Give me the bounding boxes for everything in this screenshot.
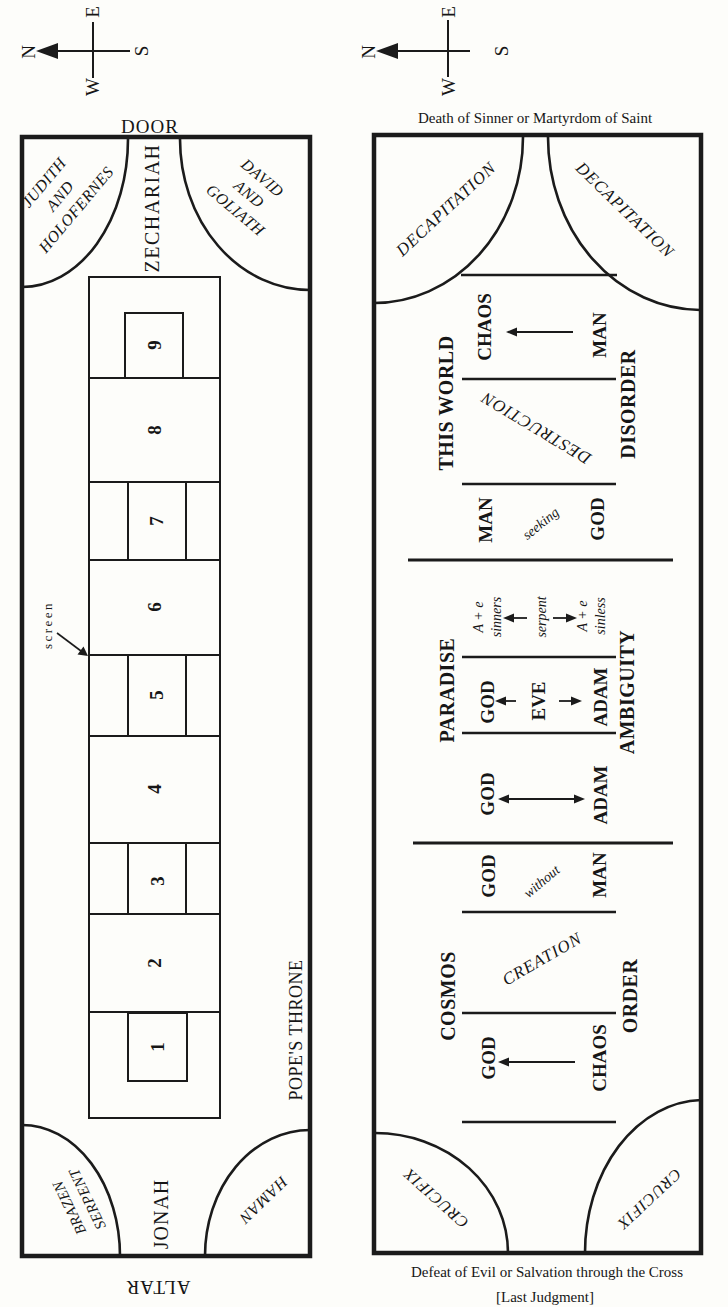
god-without-label: GOD bbox=[479, 854, 498, 897]
seeking-label: seeking bbox=[520, 505, 561, 542]
panel-number-4: 4 bbox=[145, 784, 164, 794]
compass2-west-label: W bbox=[439, 78, 458, 96]
god-sought-label: GOD bbox=[588, 497, 607, 540]
man-top-label: MAN bbox=[590, 312, 609, 357]
screen-arrow bbox=[57, 633, 88, 656]
god-adam-row-god-label: GOD bbox=[478, 772, 497, 815]
god-adam-row-adam-label: ADAM bbox=[591, 765, 610, 824]
paradise-label: PARADISE bbox=[437, 638, 457, 743]
panel-number-8: 8 bbox=[145, 425, 164, 435]
god-chaos-row-god-label: GOD bbox=[479, 1036, 498, 1079]
eve-label: EVE bbox=[529, 681, 548, 720]
compass-south-label: S bbox=[132, 46, 151, 57]
compass-north-label: N bbox=[19, 45, 38, 59]
order-label: ORDER bbox=[620, 959, 640, 1034]
panel-number-5: 5 bbox=[147, 690, 166, 700]
panel-number-3: 3 bbox=[148, 876, 167, 886]
compass2-east-label: E bbox=[439, 6, 458, 18]
pendentive-brazen-serpent-label: BRAZEN SERPENT bbox=[47, 1165, 112, 1242]
popes-throne-label: POPE'S THRONE bbox=[287, 960, 305, 1101]
compass2-north-label: N bbox=[359, 45, 378, 59]
screen-label: screen bbox=[41, 601, 54, 649]
panel-number-6: 6 bbox=[145, 602, 164, 612]
compass-rose-right bbox=[376, 20, 470, 77]
schema-caption-judgment: [Last Judgment] bbox=[496, 1290, 594, 1305]
schema-caption-top: Death of Sinner or Martyrdom of Saint bbox=[418, 111, 652, 126]
jonah-label: JONAH bbox=[151, 1179, 171, 1250]
cosmos-label: COSMOS bbox=[438, 951, 458, 1041]
corner-decapitation-right-label: DECAPITATION bbox=[573, 159, 678, 261]
pendentive-david-goliath-label: DAVID AND GOLIATH bbox=[202, 147, 297, 241]
man-without-label: MAN bbox=[590, 852, 609, 897]
panel-number-9: 9 bbox=[145, 340, 164, 350]
pendentive-haman-label: HAMAN bbox=[236, 1173, 290, 1226]
corner-crucifix-left-label: CRUCIFIX bbox=[401, 1165, 472, 1231]
book-figure-page: N E S W N E S W DOOR JUDITH AND HOLOFERN… bbox=[0, 0, 728, 1307]
corner-crucifix-right-label: CRUCIFIX bbox=[614, 1166, 684, 1233]
this-world-label: THIS WORLD bbox=[436, 335, 456, 470]
door-label: DOOR bbox=[121, 117, 179, 136]
serpent-label: serpent bbox=[535, 596, 549, 637]
ambiguity-label: AMBIGUITY bbox=[617, 630, 637, 755]
zechariah-label: ZECHARIAH bbox=[142, 143, 162, 272]
pendentive-judith-holofernes-label: JUDITH AND HOLOFERNES bbox=[2, 135, 119, 257]
disorder-label: DISORDER bbox=[618, 349, 638, 459]
schema-caption-bottom: Defeat of Evil or Salvation through the … bbox=[411, 1265, 683, 1280]
corner-decapitation-left-label: DECAPITATION bbox=[393, 159, 499, 259]
compass2-south-label: S bbox=[492, 46, 511, 57]
compass-west-label: W bbox=[83, 78, 102, 96]
god-eve-row-adam-label: ADAM bbox=[591, 667, 610, 726]
creation-diagonal-label: CREATION bbox=[499, 929, 584, 988]
god-chaos-row-chaos-label: CHAOS bbox=[590, 1024, 609, 1092]
panel-number-2: 2 bbox=[145, 958, 164, 968]
altar-label: ALTAR bbox=[125, 1278, 190, 1297]
chaos-top-label: CHAOS bbox=[475, 293, 494, 361]
panel-number-7: 7 bbox=[147, 516, 166, 526]
compass-east-label: E bbox=[83, 6, 102, 18]
panel-number-1: 1 bbox=[148, 1042, 167, 1052]
destruction-diagonal-label: DESTRUCTION bbox=[478, 389, 593, 468]
god-eve-row-god-label: GOD bbox=[478, 680, 497, 723]
adam-eve-sinners-label: A + e sinners bbox=[470, 597, 507, 637]
compass-rose-left bbox=[36, 22, 130, 78]
man-seeking-label: MAN bbox=[476, 497, 495, 542]
without-label: without bbox=[521, 863, 562, 901]
adam-eve-sinless-label: A + e sinless bbox=[574, 597, 611, 634]
